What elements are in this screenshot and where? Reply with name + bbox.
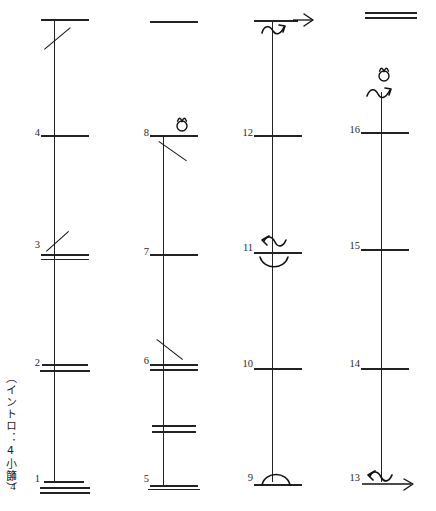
measure-number-5: 5 <box>127 474 149 485</box>
barline-5-b <box>148 489 200 490</box>
measure-number-16: 16 <box>338 125 360 136</box>
barline-15 <box>361 249 409 251</box>
measure-number-4: 4 <box>18 128 40 139</box>
barline-11 <box>254 252 302 254</box>
barline-2-b <box>40 370 90 372</box>
barline-10 <box>254 368 302 370</box>
measure-number-2: 2 <box>18 358 40 369</box>
barline-unnumbered-b <box>152 431 196 433</box>
barline-3-b <box>41 259 89 260</box>
wave-right-arrow-icon-top-3 <box>260 22 292 40</box>
barline-1-b <box>40 487 90 489</box>
measure-number-11: 11 <box>231 243 253 254</box>
barline-1-c <box>40 492 90 494</box>
wave-left-arrow-icon-11 <box>258 234 292 252</box>
barline-14 <box>361 368 409 370</box>
barline-8 <box>150 135 198 137</box>
column-1-stem <box>54 20 55 482</box>
measure-number-14: 14 <box>338 359 360 370</box>
column-4-stem <box>381 92 382 482</box>
barline-6-b <box>150 369 198 371</box>
column-4-top-barline-b <box>365 17 417 19</box>
ornament-loop-icon-16 <box>373 62 395 84</box>
column-4-top-barline-a <box>365 12 417 14</box>
barline-6-a <box>150 364 198 366</box>
barline-3-a <box>41 254 89 256</box>
barline-5-a <box>150 485 198 487</box>
measure-number-8: 8 <box>127 128 149 139</box>
arc-down-icon-11 <box>258 256 290 274</box>
measure-number-13: 13 <box>338 473 360 484</box>
barline-4 <box>41 135 89 137</box>
right-arrow-icon-top-3 <box>292 10 316 32</box>
measure-number-9: 9 <box>231 473 253 484</box>
measure-3-upstroke <box>46 231 69 252</box>
measure-number-7: 7 <box>127 247 149 258</box>
column-2-top-barline <box>150 21 198 23</box>
column-3: 12 11 10 9 <box>218 0 327 511</box>
column-1-top-upstroke <box>44 27 71 50</box>
measure-number-12: 12 <box>231 128 253 139</box>
arc-up-icon-9 <box>260 467 292 487</box>
measure-number-1: 1 <box>18 474 40 485</box>
column-2-stem <box>163 135 164 487</box>
ornament-loop-icon-8 <box>171 112 193 134</box>
wave-right-arrow-icon-16 <box>365 84 399 102</box>
column-1: 4 3 2 1 <box>0 0 109 511</box>
barline-2-a <box>42 364 88 366</box>
barline-7 <box>150 254 198 256</box>
barline-unnumbered-a <box>152 425 196 427</box>
barline-12 <box>254 135 302 137</box>
measure-number-15: 15 <box>338 241 360 252</box>
barline-1-a <box>44 481 84 483</box>
column-4: 16 15 14 13 <box>327 0 436 511</box>
measure-6-downstroke <box>156 339 183 360</box>
barline-16 <box>361 132 409 134</box>
strumming-pattern-sheet: （イントロ：4小節） 4 4 4 3 2 1 <box>0 0 436 511</box>
column-1-top-barline <box>41 19 89 21</box>
column-2: 8 7 6 5 <box>109 0 218 511</box>
measure-number-6: 6 <box>127 356 149 367</box>
measure-number-10: 10 <box>231 359 253 370</box>
right-arrow-icon-13 <box>361 478 417 494</box>
measure-number-3: 3 <box>18 240 40 251</box>
